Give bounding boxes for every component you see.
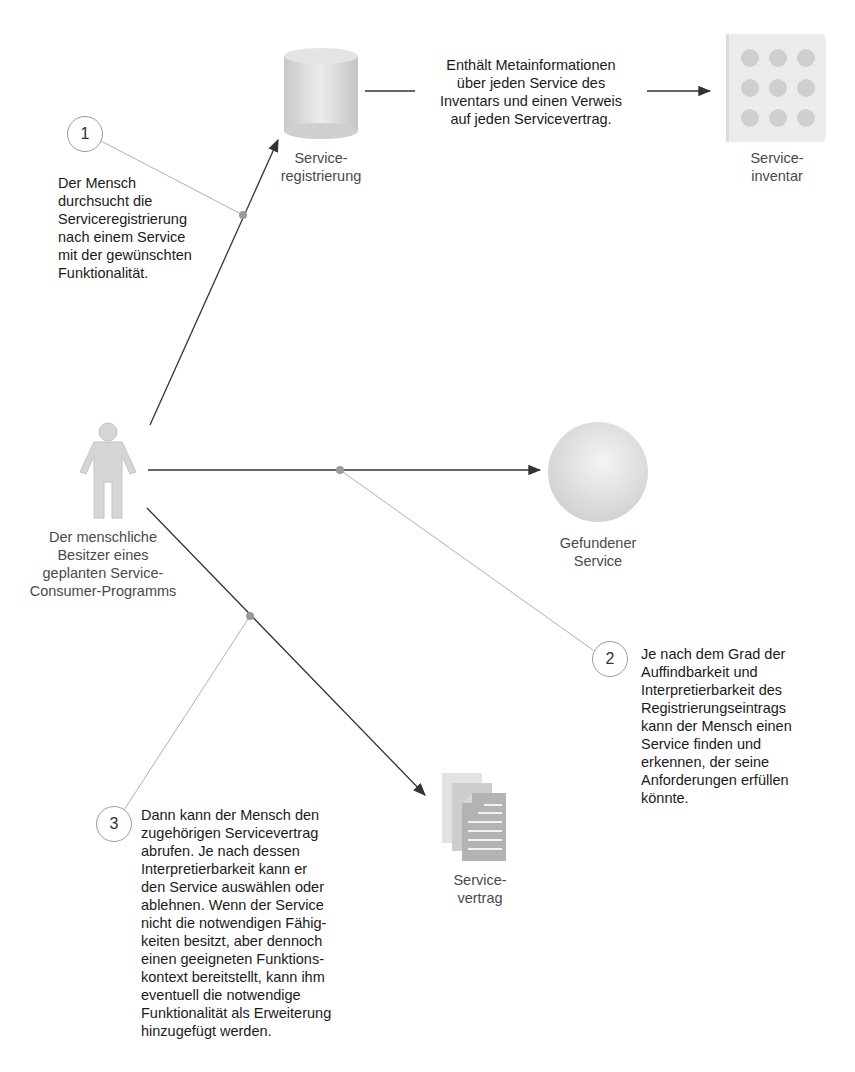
service-grid-icon [722,30,832,145]
service-contract-node: Service- vertrag [430,765,540,907]
person-icon [80,420,140,520]
step-2-badge: 2 [592,641,628,677]
registry-label: Service- registrierung [266,149,376,185]
service-inventory-node: Service- inventar [722,30,842,185]
found-service-label: Gefundener Service [540,534,656,570]
found-service-node: Gefundener Service [540,420,670,570]
human-owner-node: Der menschliche Besitzer eines geplanten… [20,420,190,600]
service-registry-node: Service- registrierung [270,46,380,185]
registry-description: Enthält Metainformationen über jeden Ser… [418,56,644,128]
sphere-icon [546,420,650,524]
step-3-badge: 3 [96,806,132,842]
step-1-badge: 1 [67,116,103,152]
human-label: Der menschliche Besitzer eines geplanten… [8,528,198,600]
database-cylinder-icon [282,46,362,141]
step-3-text: Dann kann der Mensch den zugehörigen Ser… [141,806,331,1040]
inventory-label: Service- inventar [722,149,832,185]
documents-stack-icon [434,765,524,865]
step-1-text: Der Mensch durchsucht die Serviceregistr… [58,174,192,282]
contract-label: Service- vertrag [430,871,530,907]
step-2-text: Je nach dem Grad der Auffindbarkeit und … [641,645,792,807]
